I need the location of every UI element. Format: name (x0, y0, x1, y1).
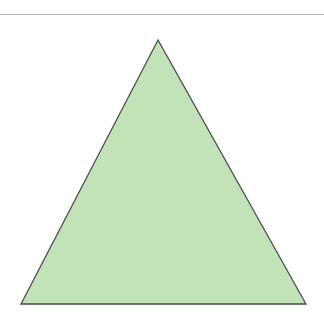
triangle-diagram (0, 0, 324, 322)
triangle-shape (21, 40, 306, 304)
